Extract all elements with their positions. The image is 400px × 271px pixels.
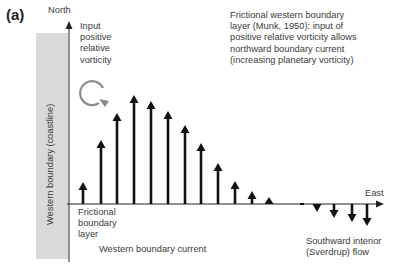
northward-arrow-icon (197, 143, 206, 204)
northward-arrow-icon (97, 140, 106, 204)
northward-arrow-icon (248, 191, 257, 204)
frictional-line: layer (78, 229, 117, 240)
southward-arrow-icon (330, 204, 339, 218)
northward-velocity-arrows (79, 95, 274, 204)
northward-arrow-icon (231, 181, 240, 204)
north-label: North (48, 5, 71, 16)
north-axis-arrowhead-icon (66, 21, 73, 29)
vorticity-line: relative (80, 43, 112, 54)
northward-arrow-icon (214, 163, 223, 204)
southward-arrow-icon (348, 204, 357, 222)
munk-line: positive relative vorticity allows (230, 32, 357, 43)
munk-line: northward boundary current (230, 44, 357, 55)
southward-velocity-arrows (300, 204, 372, 226)
northward-arrow-icon (130, 95, 139, 204)
northward-arrow-icon (147, 101, 156, 204)
interior-flow-label: Southward interior (Sverdrup) flow (306, 236, 381, 258)
counterclockwise-vorticity-icon (80, 81, 109, 107)
east-label: East (365, 188, 384, 199)
munk-note: Frictional western boundary layer (Munk,… (230, 10, 357, 66)
southward-arrow-icon (363, 204, 372, 226)
vorticity-line: vorticity (80, 55, 112, 66)
northward-arrow-icon (164, 111, 173, 204)
interior-line: (Sverdrup) flow (306, 247, 381, 258)
northward-arrow-icon (265, 197, 274, 204)
vorticity-input-note: Input positive relative vorticity (80, 21, 112, 66)
northward-arrow-icon (79, 182, 88, 204)
coastline-label: Western boundary (coastline) (45, 104, 55, 225)
interior-line: Southward interior (306, 236, 381, 247)
southward-arrow-icon (313, 204, 322, 212)
munk-line: Frictional western boundary (230, 10, 357, 21)
northward-arrow-icon (181, 125, 190, 204)
east-axis-arrowhead-icon (376, 201, 384, 208)
frictional-line: Frictional (78, 207, 117, 218)
munk-line: (increasing planetary vorticity) (230, 55, 357, 66)
western-boundary-current-label: Western boundary current (99, 244, 206, 255)
frictional-layer-label: Frictional boundary layer (78, 207, 117, 241)
frictional-line: boundary (78, 218, 117, 229)
vorticity-line: Input (80, 21, 112, 32)
vorticity-line: positive (80, 32, 112, 43)
munk-line: layer (Munk, 1950): input of (230, 21, 357, 32)
northward-arrow-icon (113, 113, 122, 204)
